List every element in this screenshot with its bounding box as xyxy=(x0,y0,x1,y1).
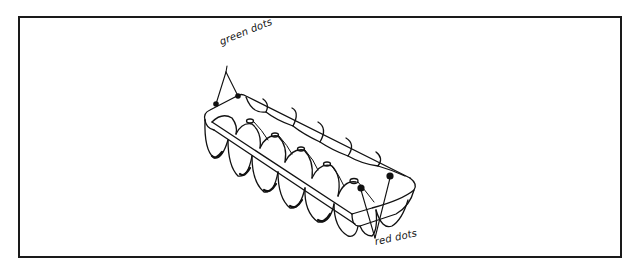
carton-underside-cups xyxy=(205,120,358,236)
leader-lines xyxy=(216,66,390,238)
red-dots xyxy=(357,172,393,191)
front-row-cup-rims xyxy=(212,116,356,196)
egg-carton-illustration xyxy=(0,0,638,270)
